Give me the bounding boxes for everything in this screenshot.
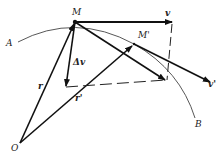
label-O: O: [11, 143, 19, 153]
label-r: r: [38, 81, 44, 91]
dashed-line-horizontal: [66, 80, 166, 87]
point-M: [73, 20, 77, 24]
velocity-vector-v-prime: [134, 44, 210, 82]
velocity-change-diagram: A B M M' O r r' v v' Δv: [0, 0, 222, 165]
label-delta-v: Δv: [72, 57, 86, 67]
trajectory-arc: [18, 27, 195, 118]
label-B: B: [194, 119, 202, 129]
label-v-prime: v': [208, 79, 216, 89]
velocity-vector-v-prime-translated: [75, 22, 165, 80]
label-r-prime: r': [75, 93, 83, 103]
label-M-prime: M': [137, 30, 150, 40]
point-M-prime: [133, 43, 135, 45]
label-v: v: [165, 8, 171, 18]
dashed-line-vertical: [167, 24, 172, 80]
label-M: M: [71, 7, 82, 17]
label-A: A: [5, 38, 13, 48]
